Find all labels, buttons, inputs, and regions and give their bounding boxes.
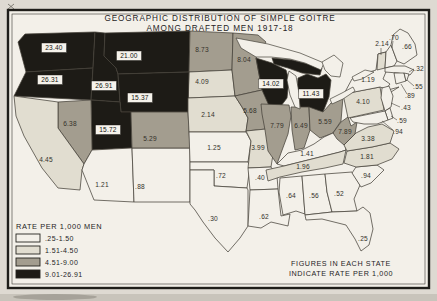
value-vermont: 2.14 <box>375 40 389 47</box>
value-idaho: 26.91 <box>95 82 113 89</box>
legend-title: RATE PER 1,000 MEN <box>16 222 102 231</box>
state-wyoming <box>118 72 189 112</box>
value-kentucky: 1.41 <box>300 150 314 157</box>
map-title-line1: GEOGRAPHIC DISTRIBUTION OF SIMPLE GOITRE <box>104 14 335 23</box>
value-tennessee: 1.96 <box>296 163 310 170</box>
value-michigan: 11.43 <box>302 90 319 97</box>
value-kansas: 1.25 <box>207 144 221 151</box>
legend-swatch-2 <box>16 246 40 254</box>
scanned-map-page: GEOGRAPHIC DISTRIBUTION OF SIMPLE GOITRE… <box>0 0 437 301</box>
value-new-york: 1.19 <box>361 76 375 83</box>
pen-mark-artifact <box>8 4 14 9</box>
value-missouri: 3.99 <box>251 144 265 151</box>
legend-label-4: 9.01-26.91 <box>45 271 82 278</box>
value-wyoming: 15.37 <box>131 94 149 101</box>
value-new-jersey: .43 <box>401 104 411 111</box>
value-mississippi: .64 <box>286 192 296 199</box>
value-ohio: 5.59 <box>318 118 332 125</box>
value-north-dakota: 8.73 <box>195 46 209 53</box>
value-west-virginia: 7.89 <box>338 128 352 135</box>
value-pennsylvania: 4.10 <box>356 98 370 105</box>
value-montana: 21.00 <box>120 52 138 59</box>
value-virginia: 3.38 <box>361 135 375 142</box>
value-massachusetts: .32 <box>414 65 424 72</box>
value-arkansas: .40 <box>255 174 265 181</box>
scan-smudge <box>13 294 97 300</box>
value-rhode-island: .55 <box>413 83 423 90</box>
value-alabama: .56 <box>309 192 319 199</box>
value-louisiana: .62 <box>259 213 269 220</box>
value-indiana: 6.49 <box>294 122 308 129</box>
legend-swatch-3 <box>16 258 40 266</box>
value-maine: .66 <box>402 43 412 50</box>
value-colorado: 5.29 <box>143 135 157 142</box>
value-south-carolina: .94 <box>361 172 371 179</box>
value-connecticut: .89 <box>405 92 415 99</box>
value-delaware: .59 <box>397 117 407 124</box>
note-line2: INDICATE RATE PER 1,000 <box>289 269 393 278</box>
value-washington: 23.40 <box>45 44 63 51</box>
value-minnesota: 8.04 <box>237 56 251 63</box>
value-utah: 15.72 <box>99 126 117 133</box>
value-north-carolina: 1.81 <box>360 153 374 160</box>
state-new-mexico <box>132 148 190 202</box>
legend-swatch-4 <box>16 270 40 278</box>
value-california: 4.45 <box>39 156 53 163</box>
state-vermont <box>377 52 386 70</box>
value-illinois: 7.79 <box>270 122 284 129</box>
legend-swatch-1 <box>16 234 40 242</box>
value-florida: .25 <box>358 235 368 242</box>
value-wisconsin: 14.02 <box>262 80 280 87</box>
value-texas: .30 <box>208 215 218 222</box>
state-colorado <box>131 112 190 148</box>
value-new-hampshire: .70 <box>389 34 399 41</box>
value-arizona: 1.21 <box>95 181 109 188</box>
value-nevada: 6.38 <box>63 120 77 127</box>
value-south-dakota: 4.09 <box>195 78 209 85</box>
value-maryland: .94 <box>393 128 403 135</box>
legend-label-3: 4.51-9.00 <box>45 259 78 266</box>
figure-note: FIGURES IN EACH STATE INDICATE RATE PER … <box>289 259 393 278</box>
goitre-distribution-map: GEOGRAPHIC DISTRIBUTION OF SIMPLE GOITRE… <box>0 0 437 301</box>
value-oklahoma: .72 <box>216 172 226 179</box>
value-oregon: 26.31 <box>41 76 59 83</box>
legend-label-2: 1.51-4.50 <box>45 247 78 254</box>
value-new-mexico: .88 <box>135 183 145 190</box>
note-line1: FIGURES IN EACH STATE <box>291 259 391 268</box>
value-iowa: 5.68 <box>243 107 257 114</box>
legend-label-1: .25-1.50 <box>45 235 74 242</box>
value-nebraska: 2.14 <box>201 111 215 118</box>
value-georgia: .52 <box>334 190 344 197</box>
